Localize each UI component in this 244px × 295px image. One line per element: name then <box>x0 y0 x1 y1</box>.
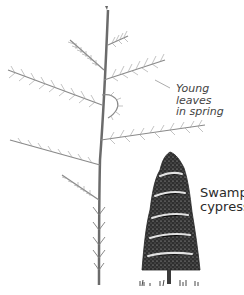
annotation-young-leaves: Young leaves in spring <box>176 83 244 118</box>
leader-line <box>155 80 170 88</box>
annotation-young-leaves-line1: Young leaves <box>176 83 244 106</box>
swamp-cypress-tree <box>140 152 200 286</box>
illustration-canvas: Young leaves in spring Swamp cypress <box>0 0 244 295</box>
species-name-line1: Swamp <box>200 186 244 200</box>
annotation-young-leaves-line2: in spring <box>176 106 244 118</box>
tree-trunk <box>167 270 171 284</box>
botanical-drawing <box>0 0 244 295</box>
annotation-species-name: Swamp cypress <box>200 186 244 213</box>
species-name-line2: cypress <box>200 200 244 214</box>
